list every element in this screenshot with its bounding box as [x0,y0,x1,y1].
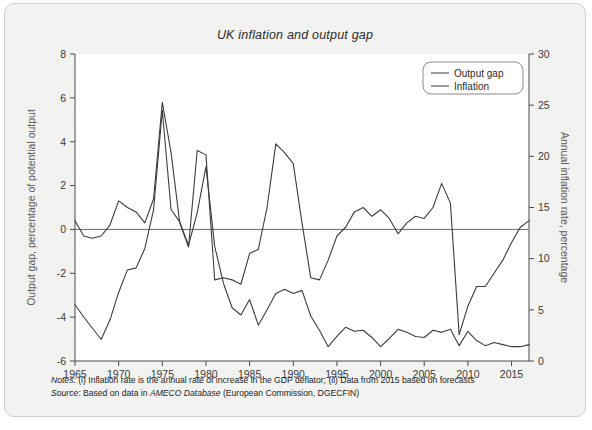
plot-area-background [75,54,529,361]
y-axis-tick-label-4: 2 [60,179,66,191]
source-line: Source: Based on data in AMECO Database … [51,387,571,400]
legend-label-0: Output gap [454,68,504,79]
y-axis-tick-label-3: 0 [60,223,66,235]
y2-axis-tick-label-6: 30 [538,48,550,60]
y2-axis-tick-label-1: 5 [538,304,544,316]
y2-axis-tick-label-3: 15 [538,201,550,213]
y-axis-tick-label-1: -4 [57,311,66,323]
source-text-post: (European Commission, DGECFIN) [221,388,360,398]
source-label: Source: [51,388,81,398]
y2-axis-tick-label-5: 25 [538,99,550,111]
y-axis-tick-label-2: -2 [57,267,66,279]
y-axis-tick-label-6: 6 [60,92,66,104]
y2-axis-tick-label-4: 20 [538,150,550,162]
y-axis-tick-label-5: 4 [60,136,66,148]
source-database-name: AMECO Database [150,388,221,398]
y-axis-tick-label-0: -6 [57,355,66,367]
notes-label: Notes: [51,375,76,385]
figure-notes: Notes: (i) Inflation rate is the annual … [51,374,571,401]
source-text-pre: Based on data in [81,388,150,398]
chart-canvas: -6-4-20246805101520253019651970197519801… [5,4,586,417]
y2-axis-tick-label-0: 0 [538,355,544,367]
notes-text: (i) Inflation rate is the annual rate of… [76,375,475,385]
legend-label-1: Inflation [454,81,489,92]
right-axis-title: Annual inflation rate, percentage [559,132,571,283]
notes-line: Notes: (i) Inflation rate is the annual … [51,374,571,387]
left-axis-title: Output gap, percentage of potential outp… [25,109,37,306]
y-axis-tick-label-7: 8 [60,48,66,60]
y2-axis-tick-label-2: 10 [538,252,550,264]
chart-figure: UK inflation and output gap -6-4-2024680… [4,3,586,417]
